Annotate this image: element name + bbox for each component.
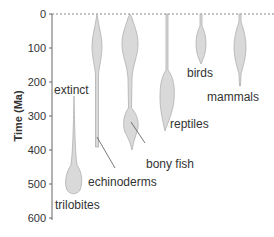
label-reptiles: reptiles: [170, 117, 209, 131]
reptiles-spindle: [160, 14, 174, 131]
label-mammals: mammals: [207, 90, 259, 104]
label-bony-fish: bony fish: [146, 157, 194, 171]
y-axis-title: Time (Ma): [12, 90, 24, 141]
trilobites-spindle: [66, 96, 82, 194]
label-birds: birds: [187, 66, 213, 80]
mammals-spindle: [234, 14, 246, 86]
tick-label-200: 200: [28, 76, 46, 88]
tick-label-600: 600: [28, 212, 46, 224]
tick-label-500: 500: [28, 178, 46, 190]
tick-label-300: 300: [28, 110, 46, 122]
echinoderms-spindle: [92, 14, 102, 147]
birds-spindle: [196, 14, 206, 64]
label-trilobites: trilobites: [55, 198, 100, 212]
label-echinoderms: echinoderms: [88, 175, 157, 189]
tick-label-0: 0: [40, 8, 46, 20]
tick-label-400: 400: [28, 144, 46, 156]
label-extinct: extinct: [54, 83, 89, 97]
tick-label-100: 100: [28, 42, 46, 54]
spindle-diagram: 0 100 200 300 400 500 600 Time (Ma) exti…: [0, 0, 274, 237]
echinoderms-leader: [97, 137, 115, 168]
